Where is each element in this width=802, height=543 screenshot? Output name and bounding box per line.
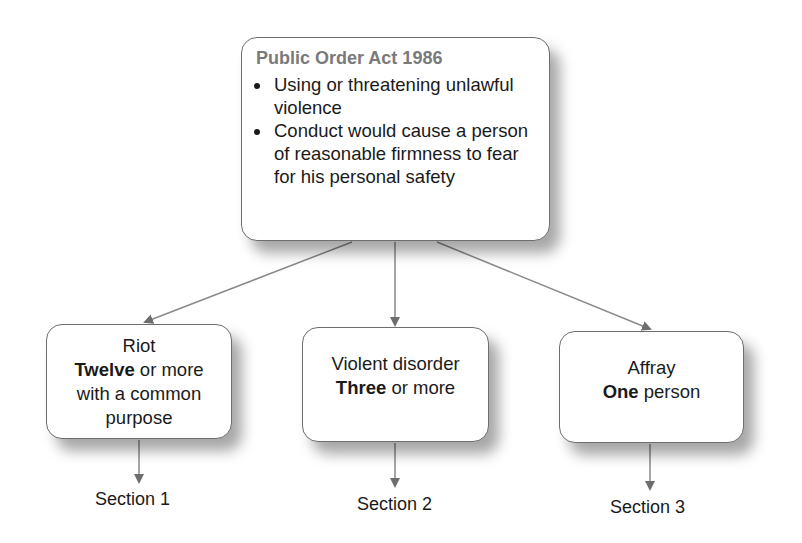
node-qualifier: One person bbox=[603, 380, 701, 404]
qualifier-rest: or more bbox=[386, 377, 455, 398]
root-bullet-list: Using or threatening unlawful violence C… bbox=[256, 73, 535, 188]
qualifier-bold: One bbox=[603, 381, 639, 402]
node-violent-disorder: Violent disorder Three or more bbox=[302, 327, 489, 442]
node-qualifier: Twelve or more bbox=[74, 358, 203, 382]
qualifier-bold: Three bbox=[336, 377, 386, 398]
node-name: Affray bbox=[628, 356, 676, 380]
qualifier-rest: person bbox=[639, 381, 701, 402]
qualifier-bold: Twelve bbox=[74, 359, 134, 380]
section-1-label: Section 1 bbox=[95, 489, 170, 510]
root-title: Public Order Act 1986 bbox=[256, 48, 535, 69]
root-bullet: Conduct would cause a person of reasonab… bbox=[272, 119, 535, 188]
node-riot: Riot Twelve or more with a common purpos… bbox=[46, 324, 232, 439]
arrow-root-to-riot bbox=[145, 242, 352, 322]
root-bullet: Using or threatening unlawful violence bbox=[272, 73, 535, 119]
arrow-root-to-affray bbox=[437, 242, 650, 329]
section-2-label: Section 2 bbox=[357, 494, 432, 515]
node-name: Riot bbox=[123, 334, 156, 358]
node-name: Violent disorder bbox=[331, 352, 459, 376]
section-3-label: Section 3 bbox=[610, 497, 685, 518]
node-qualifier: Three or more bbox=[336, 376, 455, 400]
root-node-public-order-act: Public Order Act 1986 Using or threateni… bbox=[241, 37, 550, 241]
node-affray: Affray One person bbox=[559, 331, 744, 443]
qualifier-rest: or more bbox=[135, 359, 204, 380]
node-extra: with a common purpose bbox=[64, 382, 214, 430]
